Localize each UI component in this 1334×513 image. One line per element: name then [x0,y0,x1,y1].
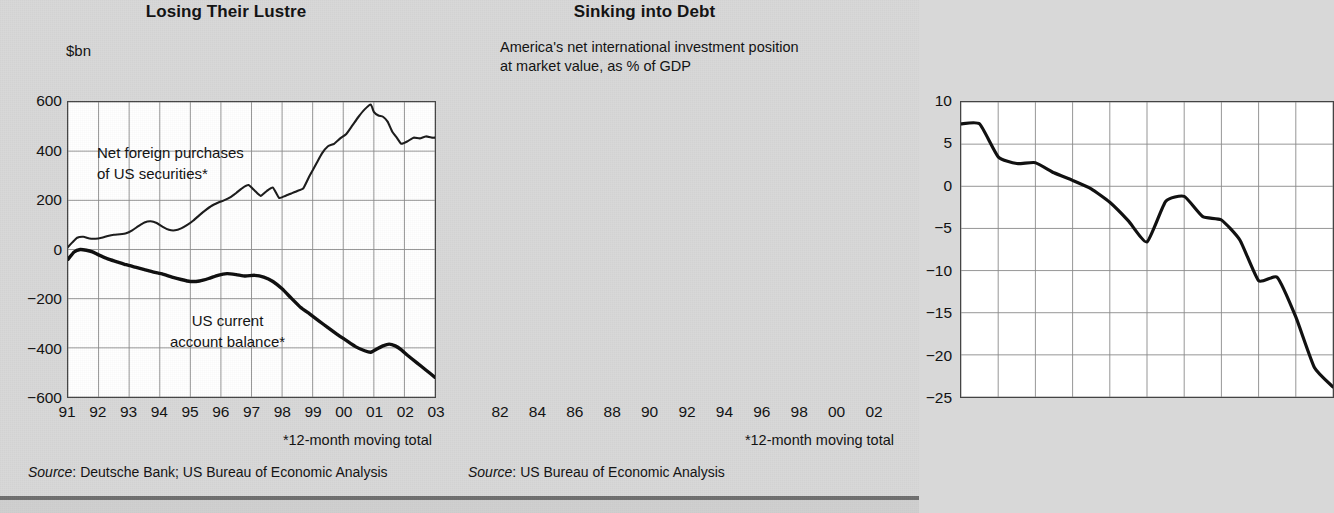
y-tick-left-neg400: −400 [6,340,62,358]
y-tick-left-600: 600 [6,92,62,110]
x-tick-right-86: 86 [566,403,583,421]
plot-area-right [960,101,1334,398]
page-title-left: Losing Their Lustre [0,2,460,22]
y-tick-right-neg25: −25 [906,389,952,407]
y-tick-right-neg5: −5 [906,219,952,237]
x-tick-left-92: 92 [89,403,106,421]
x-tick-left-99: 99 [304,403,321,421]
source-text-right: : US Bureau of Economic Analysis [512,464,724,480]
source-right: Source: US Bureau of Economic Analysis [468,464,725,480]
y-axis-unit-label-left: $bn [66,42,91,59]
y-tick-left-400: 400 [6,142,62,160]
source-text-left: : Deutsche Bank; US Bureau of Economic A… [72,464,387,480]
gridlines-right [961,102,1333,397]
y-tick-right-0: 0 [906,177,952,195]
x-tick-left-95: 95 [181,403,198,421]
x-tick-right-90: 90 [641,403,658,421]
x-tick-left-00: 00 [335,403,352,421]
x-tick-right-92: 92 [678,403,695,421]
y-tick-right-neg15: −15 [906,304,952,322]
annotation-us-current-account: US current account balance* [170,310,285,352]
line-chart-right [961,102,1333,397]
y-tick-right-10: 10 [906,92,952,110]
x-tick-left-94: 94 [151,403,168,421]
x-tick-left-03: 03 [427,403,444,421]
x-tick-left-98: 98 [274,403,291,421]
chart-panel-sinking-into-debt: Sinking into Debt America's net internat… [460,0,919,513]
x-tick-right-84: 84 [529,403,546,421]
bottom-strip [0,500,919,513]
x-tick-right-00: 00 [828,403,845,421]
page-title-right: Sinking into Debt [460,2,919,22]
subtitle-right-line2: at market value, as % of GDP [500,57,799,76]
x-tick-left-02: 02 [397,403,414,421]
x-tick-left-91: 91 [58,403,75,421]
x-tick-left-93: 93 [120,403,137,421]
x-tick-left-96: 96 [212,403,229,421]
y-tick-left-200: 200 [6,191,62,209]
footnote-right: *12-month moving total [745,432,894,448]
subtitle-right: America's net international investment p… [500,38,799,76]
source-label-left: Source [28,464,72,480]
footnote-left: *12-month moving total [283,432,432,448]
x-tick-right-98: 98 [791,403,808,421]
x-tick-right-82: 82 [491,403,508,421]
y-tick-left-neg200: −200 [6,290,62,308]
y-tick-left-neg600: −600 [6,389,62,407]
annotation-net-foreign-purchases: Net foreign purchases of US securities* [97,142,244,184]
source-label-right: Source [468,464,512,480]
x-tick-right-88: 88 [604,403,621,421]
x-tick-right-02: 02 [865,403,882,421]
y-tick-right-neg10: −10 [906,262,952,280]
y-tick-right-neg20: −20 [906,347,952,365]
source-left: Source: Deutsche Bank; US Bureau of Econ… [28,464,388,480]
y-tick-right-5: 5 [906,134,952,152]
x-tick-left-01: 01 [366,403,383,421]
x-tick-right-96: 96 [753,403,770,421]
chart-panel-losing-their-lustre: Losing Their Lustre $bn 600 400 200 0 −2… [0,0,460,513]
subtitle-right-line1: America's net international investment p… [500,38,799,57]
x-tick-right-94: 94 [716,403,733,421]
x-tick-left-97: 97 [243,403,260,421]
y-tick-left-0: 0 [6,241,62,259]
